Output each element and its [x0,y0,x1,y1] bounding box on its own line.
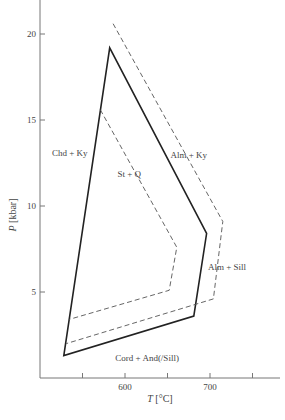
region-label: Cord + And(/Sill) [115,353,179,363]
series-group [64,24,223,356]
phase-diagram-chart: 6007005101520 Chd + KySt + QAlm + KyAlm … [0,0,285,420]
x-axis-label: T [°C] [147,393,172,404]
y-tick-label: 5 [32,287,37,297]
x-tick-label: 700 [203,382,217,392]
region-label: Chd + Ky [52,148,88,158]
y-tick-label: 15 [27,115,37,125]
region-label: St + Q [117,169,141,179]
region-label: Alm + Ky [170,150,207,160]
solid-field-boundary [64,48,207,356]
axes: 6007005101520 [27,0,280,392]
x-tick-label: 600 [118,382,132,392]
y-axis-label: P [kbar] [7,198,18,232]
y-tick-label: 20 [27,29,37,39]
annotations: Chd + KySt + QAlm + KyAlm + SillCord + A… [52,148,247,363]
y-tick-label: 10 [27,201,37,211]
region-label: Alm + Sill [208,262,247,272]
chart-canvas: 6007005101520 Chd + KySt + QAlm + KyAlm … [0,0,285,420]
